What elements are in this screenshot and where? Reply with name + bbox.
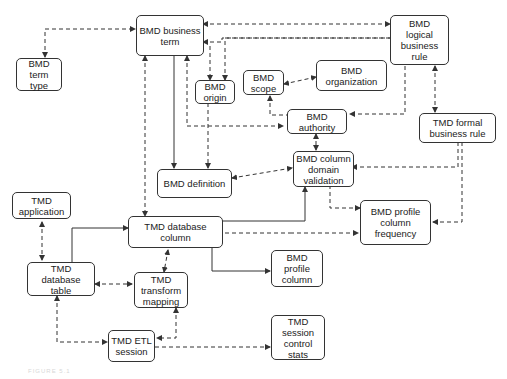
node-bmd-business-term: BMD business term (136, 15, 204, 56)
node-bmd-term-type: BMD term type (16, 58, 62, 91)
edge-transform-etl (157, 308, 176, 338)
node-tmd-session-control-stats: TMD session control stats (271, 315, 325, 360)
edge-definition-validation (232, 168, 292, 178)
node-bmd-profile-column: BMD profile column (271, 250, 323, 287)
edge-scope-organization (284, 77, 316, 84)
node-bmd-authority: BMD authority (287, 109, 347, 134)
node-bmd-origin: BMD origin (195, 80, 235, 104)
node-tmd-database-table: TMD database table (27, 262, 95, 296)
node-bmd-scope: BMD scope (243, 70, 284, 95)
node-bmd-column-domain-validation: BMD column domain validation (293, 151, 354, 187)
node-bmd-organization: BMD organization (316, 60, 387, 91)
edge-dbtable-dbcolumn (72, 228, 128, 262)
node-tmd-database-column: TMD database column (128, 216, 223, 248)
node-bmd-logical-business-rule: BMD logical business rule (390, 15, 449, 65)
figure-caption: FIGURE 5.1 (28, 368, 71, 374)
edge-businessterm-logicalrule-2 (203, 38, 390, 42)
node-bmd-definition: BMD definition (157, 169, 232, 198)
edge-termtype-businessterm (45, 29, 135, 57)
node-tmd-etl-session: TMD ETL session (108, 330, 155, 362)
edge-formalrule-profilefreq (433, 142, 462, 222)
node-tmd-transform-mapping: TMD transform mapping (134, 272, 188, 308)
node-bmd-profile-column-frequency: BMD profile column frequency (360, 200, 431, 245)
edge-dbtable-etl (57, 296, 107, 342)
edge-dbcolumn-profilecolumn (212, 248, 270, 271)
node-tmd-application: TMD application (12, 192, 71, 219)
edge-validation-profilefreq (330, 185, 360, 208)
node-tmd-formal-business-rule: TMD formal business rule (419, 113, 496, 143)
edge-formalrule-validation (352, 142, 458, 167)
edge-dbcolumn-transform (164, 250, 168, 272)
